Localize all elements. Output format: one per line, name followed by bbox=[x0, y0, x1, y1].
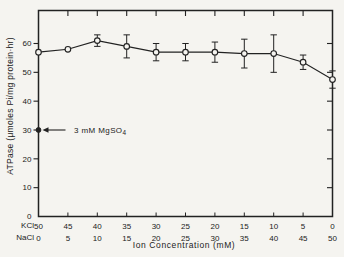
x-tick-label-nacl: 10 bbox=[93, 234, 102, 243]
y-tick-label: 0 bbox=[27, 212, 32, 221]
x-tick-label-nacl: 35 bbox=[240, 234, 249, 243]
y-tick-label: 10 bbox=[23, 183, 32, 192]
x-tick-label-kcl: 20 bbox=[210, 222, 219, 231]
data-point bbox=[36, 49, 42, 55]
y-axis-label: ATPase (μmoles Pi/mg protein·hr) bbox=[5, 37, 15, 175]
annotation-point bbox=[36, 128, 41, 133]
data-point bbox=[212, 49, 218, 55]
data-point bbox=[65, 46, 71, 52]
x-tick-label-nacl: 40 bbox=[269, 234, 278, 243]
y-tick-label: 20 bbox=[23, 155, 32, 164]
x-tick-label-kcl: 25 bbox=[181, 222, 190, 231]
x-tick-label-nacl: 5 bbox=[66, 234, 71, 243]
x-axis-row-label-kcl: KCl bbox=[8, 221, 34, 230]
data-point bbox=[242, 51, 248, 57]
x-axis-row-label-nacl: NaCl bbox=[8, 233, 34, 242]
x-tick-label-kcl: 15 bbox=[240, 222, 249, 231]
left-arrow-icon bbox=[43, 127, 49, 132]
y-tick-label: 50 bbox=[23, 68, 32, 77]
x-tick-label-nacl: 50 bbox=[328, 234, 337, 243]
x-axis-label: Ion Concentration (mM) bbox=[133, 240, 235, 250]
x-tick-label-nacl: 45 bbox=[299, 234, 308, 243]
x-tick-label-kcl: 35 bbox=[122, 222, 131, 231]
x-tick-label-kcl: 50 bbox=[34, 222, 43, 231]
data-point bbox=[124, 44, 130, 50]
x-tick-label-nacl: 15 bbox=[122, 234, 131, 243]
data-point bbox=[330, 77, 336, 83]
x-tick-label-kcl: 0 bbox=[330, 222, 335, 231]
data-point bbox=[300, 59, 306, 65]
y-tick-label: 60 bbox=[23, 39, 32, 48]
data-point bbox=[271, 51, 277, 57]
data-point bbox=[95, 38, 101, 44]
data-point bbox=[183, 49, 189, 55]
data-point bbox=[153, 49, 159, 55]
y-tick-label: 40 bbox=[23, 97, 32, 106]
x-tick-label-kcl: 30 bbox=[152, 222, 161, 231]
annotation-text: 3 mM MgSO4 bbox=[74, 126, 127, 136]
chart-canvas: 0102030405060504540353025201510500510152… bbox=[0, 0, 344, 257]
y-tick-label: 30 bbox=[23, 126, 32, 135]
x-tick-label-nacl: 0 bbox=[36, 234, 41, 243]
plot-frame bbox=[39, 11, 333, 217]
x-tick-label-kcl: 40 bbox=[93, 222, 102, 231]
x-tick-label-kcl: 45 bbox=[63, 222, 72, 231]
figure-atpase-ion-concentration: 0102030405060504540353025201510500510152… bbox=[0, 0, 344, 257]
x-tick-label-kcl: 10 bbox=[269, 222, 278, 231]
x-tick-label-kcl: 5 bbox=[301, 222, 306, 231]
